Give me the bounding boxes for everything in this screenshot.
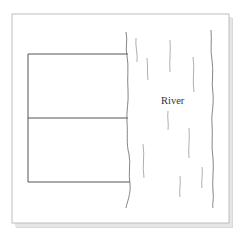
- river-label: River: [161, 95, 185, 106]
- current-stroke: [143, 144, 144, 178]
- river-fields-diagram: River: [0, 0, 245, 238]
